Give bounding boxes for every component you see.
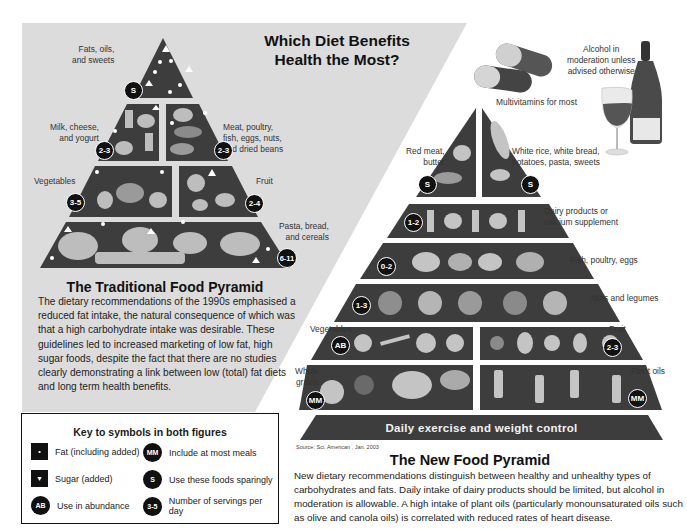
new-badge-whole-grains: MM (306, 391, 325, 410)
new-description: New dietary recommendations distinguish … (294, 469, 684, 525)
new-badge-nuts: 1-3 (352, 296, 371, 315)
new-label-dairy: Dairy products or calcium supplement (544, 206, 618, 228)
key-item-most-meals: MM Include at most meals (143, 443, 257, 462)
title-line-2: Health the Most? (232, 50, 442, 69)
key-item-sugar: ▼ Sugar (added) (31, 470, 113, 487)
symbol-key: Key to symbols in both figures • Fat (in… (21, 413, 279, 524)
trad-badge-meat: 2-3 (214, 141, 233, 160)
servings-badge-icon: 3-5 (143, 497, 162, 516)
new-badge-plant-oils: MM (628, 389, 647, 408)
new-badge-red-meat: S (418, 175, 437, 194)
trad-label-vegetables: Vegetables (34, 176, 75, 187)
traditional-description: The dietary recommendations of the 1990s… (38, 295, 300, 394)
key-item-abundance: AB Use in abundance (31, 496, 130, 515)
trad-badge-grains: 6-11 (277, 248, 297, 268)
trad-label-fruit: Fruit (256, 176, 273, 187)
trad-badge-milk: 2-3 (95, 141, 114, 160)
new-label-vegetables: Vegetables (310, 324, 351, 335)
new-badge-dairy: 1-2 (404, 213, 423, 232)
new-heading: The New Food Pyramid (370, 452, 570, 468)
new-badge-fruit: 2-3 (603, 338, 622, 357)
most-meals-badge-icon: MM (143, 443, 162, 462)
new-label-whole-grains: Whole grains (295, 366, 319, 388)
trad-badge-fruit: 2-4 (245, 194, 264, 213)
new-label-fruit: Fruit (609, 324, 626, 335)
new-badge-vegetables: AB (331, 336, 350, 355)
new-badge-white-carbs: S (521, 175, 540, 194)
key-item-sparingly: S Use these foods sparingly (143, 470, 273, 489)
new-label-nuts: Nuts and legumes (591, 293, 659, 304)
key-title: Key to symbols in both figures (22, 426, 278, 438)
sparingly-badge-icon: S (143, 470, 162, 489)
alcohol-label: Alcohol in moderation unless advised oth… (567, 44, 635, 77)
key-item-servings: 3-5 Number of servings per day (143, 496, 278, 516)
page-title: Which Diet Benefits Health the Most? (232, 31, 442, 69)
new-label-red-meat: Red meat, butter (406, 146, 445, 168)
fat-dot-icon: • (31, 443, 48, 460)
new-label-white-carbs: White rice, white bread, potatoes, pasta… (512, 146, 600, 168)
sugar-triangle-icon: ▼ (31, 470, 48, 487)
new-tier-fish (360, 243, 594, 279)
trad-label-fats: Fats, oils, and sweets (72, 44, 114, 66)
trad-badge-fats: S (124, 81, 143, 100)
title-line-1: Which Diet Benefits (232, 31, 442, 50)
new-label-plant-oils: Plant oils (631, 366, 665, 377)
trad-badge-vegetables: 3-5 (66, 193, 85, 212)
source-citation: Source: Sci. American , Jan. 2003 (296, 444, 379, 450)
traditional-heading: The Traditional Food Pyramid (40, 279, 290, 295)
trad-label-grains: Pasta, bread, and cereals (279, 221, 329, 243)
multivitamins-label: Multivitamins for most (496, 97, 577, 108)
multivitamin-illustration (473, 41, 555, 94)
trad-label-milk: Milk, cheese, and yogurt (50, 122, 99, 144)
new-badge-fish: 0-2 (377, 257, 396, 276)
new-label-fish: Fish, poultry, eggs (570, 255, 638, 266)
new-label-exercise: Daily exercise and weight control (300, 415, 663, 440)
key-item-fat: • Fat (including added) (31, 443, 140, 460)
abundance-badge-icon: AB (31, 496, 50, 515)
